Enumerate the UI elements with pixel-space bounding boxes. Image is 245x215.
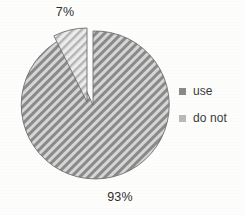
legend-swatch-square-icon (179, 88, 186, 95)
pie-slice-use (21, 31, 169, 179)
pie-chart-figure: 7% 93% use do not (0, 0, 245, 215)
chart-legend: use do not (179, 84, 243, 138)
legend-item-use[interactable]: use (179, 84, 243, 98)
legend-item-do-not[interactable]: do not (179, 111, 243, 125)
legend-label-do-not: do not (193, 111, 227, 125)
legend-label-use: use (193, 84, 213, 98)
legend-swatch-square-icon (179, 115, 186, 122)
slice-label-do-not: 7% (45, 5, 85, 19)
slice-label-use: 93% (98, 190, 142, 204)
